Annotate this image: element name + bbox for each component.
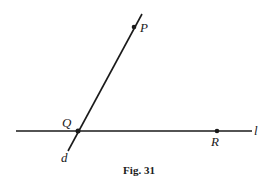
geometry-figure: P Q R l d Fig. 31 — [0, 0, 278, 184]
label-d: d — [61, 150, 68, 165]
label-l: l — [254, 123, 258, 138]
label-q: Q — [62, 115, 72, 130]
point-q — [76, 129, 81, 134]
figure-caption: Fig. 31 — [123, 164, 155, 176]
point-r — [215, 129, 220, 134]
point-p — [132, 25, 137, 30]
label-p: P — [139, 20, 148, 35]
label-r: R — [210, 134, 219, 149]
